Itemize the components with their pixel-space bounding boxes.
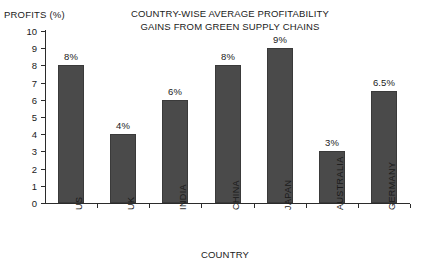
bar-value-label: 8% [203, 52, 253, 62]
bar-value-label: 4% [98, 121, 148, 131]
x-axis-tick [97, 204, 98, 208]
x-axis-tick [149, 204, 150, 208]
y-axis-tick-label: 10 [13, 27, 37, 37]
x-axis-title: COUNTRY [155, 249, 295, 260]
y-axis-tick [41, 203, 46, 204]
y-axis-tick-label: 3 [13, 147, 37, 157]
x-axis-category-label: INDIA [179, 184, 188, 210]
bar-value-label: 6.5% [359, 78, 409, 88]
bar-value-label: 3% [307, 138, 357, 148]
y-axis-tick-label: 6 [13, 96, 37, 106]
y-axis-tick [41, 169, 46, 170]
x-axis-category-label: UK [127, 197, 136, 210]
x-axis-tick [201, 204, 202, 208]
bar-value-label: 8% [46, 52, 96, 62]
x-axis-tick [306, 204, 307, 208]
chart-title-line-2: GAINS FROM GREEN SUPPLY CHAINS [100, 21, 360, 34]
x-axis-category-label: AUSTRALIA [336, 156, 345, 210]
y-axis-tick [41, 48, 46, 49]
x-axis-category-label: CHINA [232, 180, 241, 210]
x-axis-category-label: JAPAN [284, 180, 293, 210]
y-axis-tick [41, 83, 46, 84]
y-axis-tick-label: 1 [13, 182, 37, 192]
y-axis-tick [41, 186, 46, 187]
y-axis-tick [41, 117, 46, 118]
y-axis-tick-label: 8 [13, 61, 37, 71]
y-axis-tick [41, 65, 46, 66]
x-axis-tick [358, 204, 359, 208]
y-axis-tick [41, 31, 46, 32]
x-axis-tick [410, 204, 411, 208]
bar [110, 134, 136, 203]
y-axis-tick-label: 9 [13, 44, 37, 54]
x-axis-category-label: GERMANY [388, 162, 397, 210]
bar-value-label: 9% [255, 35, 305, 45]
chart-title: COUNTRY-WISE AVERAGE PROFITABILITY GAINS… [100, 8, 360, 33]
x-axis-category-label: US [75, 197, 84, 210]
y-axis-title: PROFITS (%) [4, 9, 65, 20]
y-axis-tick-label: 5 [13, 113, 37, 123]
y-axis-tick-label: 4 [13, 130, 37, 140]
y-axis-tick-label: 2 [13, 165, 37, 175]
x-axis-line [45, 203, 410, 204]
y-axis-tick [41, 100, 46, 101]
bar-chart: PROFITS (%) COUNTRY-WISE AVERAGE PROFITA… [0, 0, 424, 271]
y-axis-tick-label: 7 [13, 79, 37, 89]
y-axis-tick [41, 134, 46, 135]
y-axis-tick [41, 151, 46, 152]
x-axis-tick [254, 204, 255, 208]
y-axis-tick-label: 0 [13, 199, 37, 209]
chart-title-line-1: COUNTRY-WISE AVERAGE PROFITABILITY [100, 8, 360, 21]
bar-value-label: 6% [150, 87, 200, 97]
bar [58, 65, 84, 203]
